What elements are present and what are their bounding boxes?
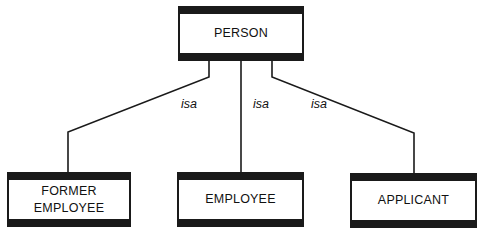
connector-former-employee <box>68 60 209 173</box>
entity-former-employee: FORMER EMPLOYEE <box>7 172 131 227</box>
isa-label-former-employee: isa <box>181 97 197 111</box>
isa-label-applicant: isa <box>311 97 327 111</box>
isa-label-employee: isa <box>253 97 269 111</box>
entity-applicant: APPLICANT <box>350 173 477 228</box>
entity-person: PERSON <box>178 6 304 61</box>
connector-applicant <box>272 60 414 174</box>
entity-label: EMPLOYEE <box>205 191 275 208</box>
entity-label: PERSON <box>214 25 268 42</box>
entity-employee: EMPLOYEE <box>177 172 304 227</box>
entity-label: FORMER EMPLOYEE <box>34 183 104 217</box>
entity-label: APPLICANT <box>378 192 449 209</box>
